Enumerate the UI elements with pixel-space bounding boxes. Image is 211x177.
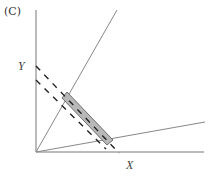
shaded-region [62, 92, 113, 145]
diagram-panel-c: (C) Y X [0, 0, 211, 177]
shallow-ray [36, 122, 205, 152]
diagram-canvas [0, 0, 211, 177]
panel-label: (C) [4, 5, 21, 18]
x-axis-label: X [126, 158, 133, 173]
y-axis-label: Y [18, 59, 25, 74]
steep-ray [36, 10, 117, 152]
